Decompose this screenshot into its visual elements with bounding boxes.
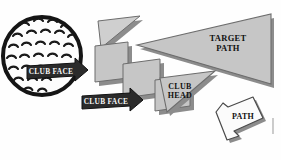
- club-face-banner-upper-label: CLUB FACE: [29, 67, 74, 76]
- golf-ball: [3, 17, 81, 95]
- path-callout-label: PATH: [232, 112, 255, 121]
- golf-swing-diagram: TARGET PATH CLUB HEAD: [0, 0, 281, 160]
- diagram-canvas: TARGET PATH CLUB HEAD: [0, 0, 281, 160]
- club-head-label-line2: HEAD: [168, 91, 192, 100]
- target-path-label-line1: TARGET: [209, 33, 246, 43]
- club-face-banner-lower-label: CLUB FACE: [84, 97, 129, 106]
- club-head-label-line1: CLUB: [168, 82, 192, 91]
- target-path-label-line2: PATH: [216, 43, 240, 53]
- club-face-plate-2-face: [123, 59, 160, 98]
